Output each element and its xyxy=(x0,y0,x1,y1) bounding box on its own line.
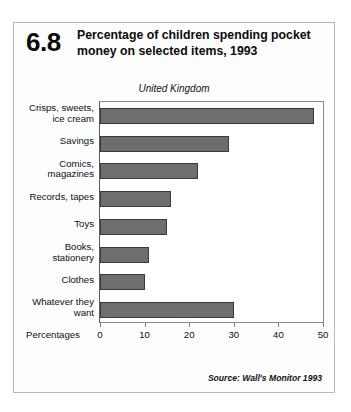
bar xyxy=(100,163,198,179)
x-axis-tick-label: 20 xyxy=(174,329,204,340)
x-axis-tick-label: 0 xyxy=(85,329,115,340)
bar-row xyxy=(100,302,323,318)
x-axis-tick-label: 30 xyxy=(219,329,249,340)
bar xyxy=(100,274,145,290)
bar-row xyxy=(100,191,323,207)
bar-row xyxy=(100,163,323,179)
category-label-line: magazines xyxy=(24,169,94,180)
category-label-line: want xyxy=(24,308,94,319)
category-label-line: Toys xyxy=(24,219,94,230)
category-label-line: Books, xyxy=(24,242,94,253)
category-label-line: Records, tapes xyxy=(24,192,94,203)
category-label: Comics,magazines xyxy=(24,159,94,180)
bar xyxy=(100,108,314,124)
category-label: Savings xyxy=(24,136,94,147)
bar-row xyxy=(100,219,323,235)
category-label-line: Clothes xyxy=(24,275,94,286)
category-label: Crisps, sweets,ice cream xyxy=(24,103,94,124)
chart-subtitle: United Kingdom xyxy=(14,83,334,94)
x-axis-tick-label: 50 xyxy=(308,329,338,340)
category-label-line: stationery xyxy=(24,253,94,264)
category-label: Clothes xyxy=(24,275,94,286)
source-note: Source: Wall's Monitor 1993 xyxy=(208,373,322,383)
x-axis-tick xyxy=(323,323,324,327)
category-label: Toys xyxy=(24,219,94,230)
category-label-line: Savings xyxy=(24,136,94,147)
figure-header: 6.8 Percentage of children spending pock… xyxy=(14,23,334,75)
bar xyxy=(100,302,234,318)
bar xyxy=(100,136,229,152)
x-axis-tick-label: 40 xyxy=(263,329,293,340)
bar xyxy=(100,247,149,263)
figure-panel: 6.8 Percentage of children spending pock… xyxy=(13,22,335,393)
x-axis-tick xyxy=(234,323,235,327)
category-label: Whatever theywant xyxy=(24,297,94,318)
category-label-line: ice cream xyxy=(24,114,94,125)
x-axis-tick xyxy=(100,323,101,327)
category-axis: Crisps, sweets,ice creamSavingsComics,ma… xyxy=(26,101,99,349)
x-axis-tick-label: 10 xyxy=(130,329,160,340)
bar-row xyxy=(100,274,323,290)
plot-frame xyxy=(99,101,324,323)
bar-row xyxy=(100,136,323,152)
bar xyxy=(100,219,167,235)
figure-title: Percentage of children spending pocket m… xyxy=(77,28,325,59)
bar-row xyxy=(100,108,323,124)
category-label: Records, tapes xyxy=(24,192,94,203)
bar-row xyxy=(100,247,323,263)
x-axis-tick xyxy=(189,323,190,327)
category-label: Books,stationery xyxy=(24,242,94,263)
x-axis-tick xyxy=(278,323,279,327)
figure-number: 6.8 xyxy=(26,29,61,55)
x-axis-tick xyxy=(145,323,146,327)
bar xyxy=(100,191,171,207)
bar-chart: Crisps, sweets,ice creamSavingsComics,ma… xyxy=(26,101,324,349)
